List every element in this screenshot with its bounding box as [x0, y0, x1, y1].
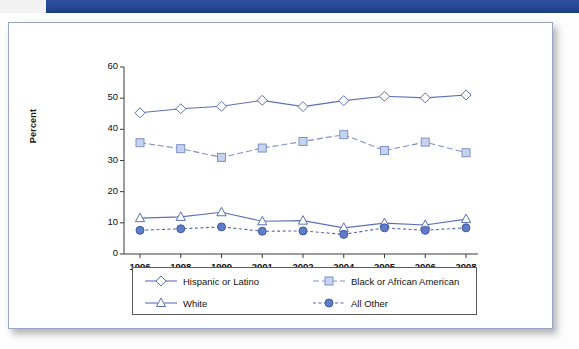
- data-point: [421, 226, 429, 234]
- data-point: [381, 147, 389, 155]
- legend-marker-icon: [143, 296, 179, 310]
- chart-plot-area: Percent 0102030405060 199619981999200120…: [12, 26, 549, 325]
- data-point: [298, 102, 308, 112]
- data-point: [258, 227, 266, 235]
- legend-item-1[interactable]: Black or African American: [311, 271, 459, 291]
- figure-page-root: Percent 0102030405060 199619981999200120…: [0, 0, 579, 349]
- chart-series: [135, 90, 471, 238]
- data-point: [299, 137, 307, 145]
- data-point: [462, 224, 470, 232]
- data-point: [136, 139, 144, 147]
- data-point: [176, 104, 186, 114]
- legend-marker-icon: [311, 274, 347, 288]
- data-point: [298, 216, 307, 225]
- data-point: [461, 90, 471, 100]
- data-point: [177, 225, 185, 233]
- chart-svg: [12, 26, 549, 266]
- legend-label: White: [183, 298, 207, 309]
- data-point: [381, 224, 389, 232]
- data-point: [217, 207, 226, 216]
- data-point: [339, 96, 349, 106]
- document-header-band: [0, 0, 579, 13]
- data-point: [421, 138, 429, 146]
- legend-label: All Other: [351, 298, 388, 309]
- legend-item-0[interactable]: Hispanic or Latino: [143, 271, 259, 291]
- legend-label: Hispanic or Latino: [183, 276, 259, 287]
- data-point: [135, 213, 144, 222]
- data-point: [177, 145, 185, 153]
- figure-card-inner: Percent 0102030405060 199619981999200120…: [12, 26, 549, 325]
- data-point: [380, 91, 390, 101]
- data-point: [340, 230, 348, 238]
- legend-marker-icon: [311, 296, 347, 310]
- data-point: [218, 153, 226, 161]
- data-point: [218, 223, 226, 231]
- data-point: [299, 227, 307, 235]
- data-point: [420, 93, 430, 103]
- legend-item-3[interactable]: All Other: [311, 293, 388, 313]
- data-point: [257, 95, 267, 105]
- legend-item-2[interactable]: White: [143, 293, 207, 313]
- legend-label: Black or African American: [351, 276, 459, 287]
- data-point: [258, 144, 266, 152]
- data-point: [136, 226, 144, 234]
- legend-marker-icon: [143, 274, 179, 288]
- data-point: [135, 108, 145, 118]
- data-point: [461, 214, 470, 223]
- data-point: [217, 101, 227, 111]
- chart-legend: Hispanic or LatinoBlack or African Ameri…: [132, 267, 477, 315]
- data-point: [462, 149, 470, 157]
- figure-card: Percent 0102030405060 199619981999200120…: [8, 22, 553, 329]
- data-point: [340, 131, 348, 139]
